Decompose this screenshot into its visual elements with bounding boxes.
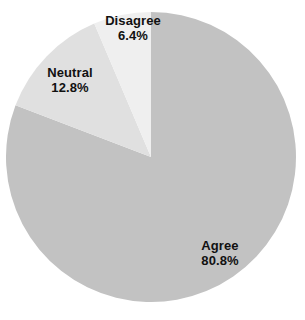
pie-label-neutral: Neutral 12.8%	[31, 66, 109, 95]
pie-label-neutral-name: Neutral	[31, 66, 109, 81]
pie-label-disagree-name: Disagree	[94, 14, 172, 29]
pie-label-agree: Agree 80.8%	[181, 239, 259, 268]
pie-label-agree-name: Agree	[181, 239, 259, 254]
pie-chart-figure: Disagree 6.4% Neutral 12.8% Agree 80.8%	[0, 0, 305, 320]
pie-label-disagree: Disagree 6.4%	[94, 14, 172, 43]
pie-label-agree-value: 80.8%	[181, 254, 259, 269]
pie-label-disagree-value: 6.4%	[94, 29, 172, 44]
pie-label-neutral-value: 12.8%	[31, 81, 109, 96]
